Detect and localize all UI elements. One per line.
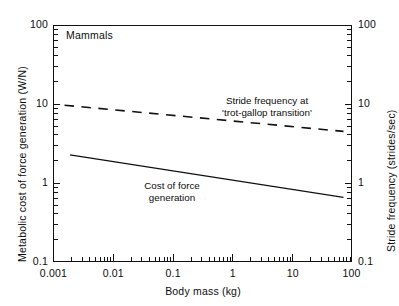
x-axis-title: Body mass (kg) <box>113 285 293 297</box>
mammals-group-label: Mammals <box>66 29 113 41</box>
xtick-label-0.01: 0.01 <box>83 267 143 279</box>
stride-frequency-annotation-line2: 'trot-gallop transition' <box>203 107 331 118</box>
cost-of-force-annotation-line2: generation <box>116 192 228 203</box>
figure-panel: Mammals 100 10 1 0.1 100 10 1 0.1 0.001 … <box>0 0 399 306</box>
right-ytick-label-0.1: 0.1 <box>358 255 373 267</box>
chart-svg <box>0 0 399 306</box>
y2-axis-title: Stride frequency (strides/sec) <box>385 109 397 252</box>
x-axis-ticks <box>54 254 352 262</box>
xtick-label-10: 10 <box>263 267 323 279</box>
xtick-label-100: 100 <box>322 267 382 279</box>
left-ytick-label-100: 100 <box>24 18 48 30</box>
right-ytick-label-100: 100 <box>358 18 376 30</box>
axis-lines <box>53 25 352 262</box>
right-ytick-label-1: 1 <box>358 176 364 188</box>
right-axis-ticks <box>345 26 352 262</box>
stride-frequency-annotation-line1: Stride frequency at <box>203 95 331 106</box>
right-ytick-label-10: 10 <box>358 97 370 109</box>
cost-of-force-annotation: Cost of force generation <box>116 180 228 203</box>
left-axis-ticks <box>54 26 61 262</box>
xtick-label-1: 1 <box>203 267 263 279</box>
y-axis-title: Metabolic cost of force generation (W/N) <box>16 66 28 262</box>
xtick-label-0.1: 0.1 <box>143 267 203 279</box>
cost-of-force-annotation-line1: Cost of force <box>116 180 228 191</box>
xtick-label-0.001: 0.001 <box>24 267 84 279</box>
stride-frequency-annotation: Stride frequency at 'trot-gallop transit… <box>203 95 331 118</box>
